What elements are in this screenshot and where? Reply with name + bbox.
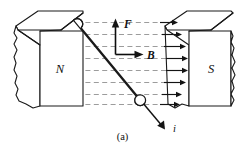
current-arrow: i — [144, 104, 177, 134]
force-label: F — [123, 18, 132, 30]
magnet-north-label: N — [55, 62, 65, 76]
magnet-south-label: S — [208, 62, 215, 76]
magnet-south: S — [165, 11, 235, 108]
magnet-north-back-face — [14, 26, 40, 108]
rod-body — [74, 19, 145, 106]
current-carrying-rod — [74, 19, 146, 106]
magnet-rod-diagram: N S — [0, 0, 245, 149]
force-vector: F — [112, 18, 132, 55]
field-vector-label: B — [146, 49, 155, 61]
magnet-north: N — [14, 11, 83, 108]
magnet-south-torn-edge — [231, 31, 235, 106]
figure-caption: (a) — [0, 131, 245, 142]
physics-figure: N S — [0, 0, 245, 149]
